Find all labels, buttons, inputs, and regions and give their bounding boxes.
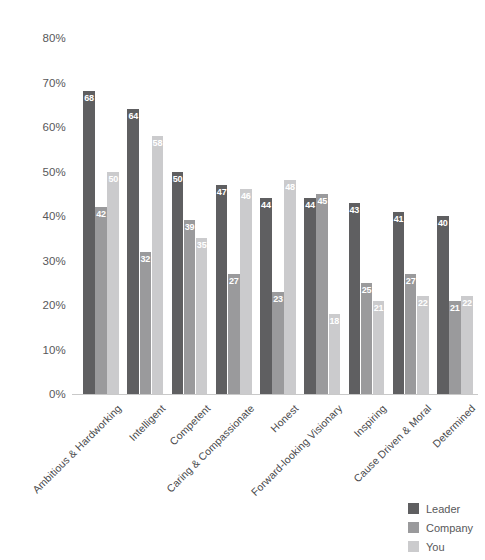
bar-group: 432521 (349, 38, 385, 394)
bar-company[interactable]: 39 (184, 220, 196, 394)
bar-company[interactable]: 42 (95, 207, 107, 394)
bar-value-label: 64 (127, 111, 139, 121)
bar-you[interactable]: 22 (417, 296, 429, 394)
bar-slot: 47 (216, 38, 228, 394)
bar-slot: 21 (449, 38, 461, 394)
bar-group: 503935 (172, 38, 208, 394)
bar-value-label: 27 (405, 276, 417, 286)
y-axis-tick: 80% (42, 32, 66, 44)
bar-value-label: 68 (83, 93, 95, 103)
y-axis-tick: 60% (42, 121, 66, 133)
bar-slot: 21 (373, 38, 385, 394)
bar-value-label: 44 (304, 200, 316, 210)
bar-value-label: 18 (329, 316, 341, 326)
bar-value-label: 35 (196, 240, 208, 250)
bar-leader[interactable]: 68 (83, 91, 95, 394)
bar-group: 402122 (437, 38, 473, 394)
y-axis: 80%70%60%50%40%30%20%10%0% (0, 38, 72, 394)
bar-value-label: 23 (272, 294, 284, 304)
x-axis-labels: Ambitious & HardworkingIntelligentCompet… (78, 396, 476, 496)
bar-group: 444518 (304, 38, 340, 394)
legend-label: Company (426, 522, 473, 534)
legend-item[interactable]: Leader (408, 500, 485, 517)
bar-value-label: 22 (417, 298, 429, 308)
bar-you[interactable]: 21 (373, 301, 385, 394)
bar-slot: 50 (172, 38, 184, 394)
y-axis-tick: 50% (42, 166, 66, 178)
bar-company[interactable]: 23 (272, 292, 284, 394)
bar-value-label: 44 (260, 200, 272, 210)
bar-you[interactable]: 18 (329, 314, 341, 394)
bar-slot: 41 (393, 38, 405, 394)
bar-value-label: 39 (184, 222, 196, 232)
bar-slot: 18 (329, 38, 341, 394)
bar-slot: 48 (284, 38, 296, 394)
bar-you[interactable]: 50 (107, 172, 119, 395)
bar-slot: 27 (228, 38, 240, 394)
bar-value-label: 50 (107, 174, 119, 184)
bar-company[interactable]: 45 (316, 194, 328, 394)
bar-slot: 22 (461, 38, 473, 394)
bar-slot: 58 (152, 38, 164, 394)
bar-leader[interactable]: 44 (304, 198, 316, 394)
y-axis-tick: 10% (42, 344, 66, 356)
bar-slot: 45 (316, 38, 328, 394)
bar-value-label: 32 (140, 254, 152, 264)
bar-company[interactable]: 27 (405, 274, 417, 394)
legend-item[interactable]: You (408, 538, 485, 555)
bar-slot: 46 (240, 38, 252, 394)
legend-swatch (408, 522, 419, 533)
bar-slot: 43 (349, 38, 361, 394)
bar-value-label: 42 (95, 209, 107, 219)
bar-group: 412722 (393, 38, 429, 394)
bar-you[interactable]: 22 (461, 296, 473, 394)
bar-value-label: 40 (437, 218, 449, 228)
bar-company[interactable]: 32 (140, 252, 152, 394)
bar-slot: 25 (361, 38, 373, 394)
bar-group: 472746 (216, 38, 252, 394)
bar-slot: 32 (140, 38, 152, 394)
y-axis-tick: 70% (42, 77, 66, 89)
bar-slot: 23 (272, 38, 284, 394)
legend-swatch (408, 503, 419, 514)
bar-slot: 44 (260, 38, 272, 394)
legend-swatch (408, 541, 419, 552)
bar-slot: 35 (196, 38, 208, 394)
bar-leader[interactable]: 40 (437, 216, 449, 394)
bar-slot: 64 (127, 38, 139, 394)
bar-slot: 68 (83, 38, 95, 394)
bar-slot: 39 (184, 38, 196, 394)
x-axis-baseline (72, 394, 478, 395)
y-axis-tick: 40% (42, 210, 66, 222)
bar-group: 643258 (127, 38, 163, 394)
bar-leader[interactable]: 41 (393, 212, 405, 394)
bar-value-label: 47 (216, 187, 228, 197)
bar-leader[interactable]: 47 (216, 185, 228, 394)
bar-value-label: 41 (393, 214, 405, 224)
bar-leader[interactable]: 44 (260, 198, 272, 394)
bar-group: 442348 (260, 38, 296, 394)
bar-leader[interactable]: 64 (127, 109, 139, 394)
bar-value-label: 48 (284, 182, 296, 192)
bar-value-label: 22 (461, 298, 473, 308)
bar-leader[interactable]: 43 (349, 203, 361, 394)
bar-value-label: 43 (349, 205, 361, 215)
y-axis-tick: 30% (42, 255, 66, 267)
bar-company[interactable]: 27 (228, 274, 240, 394)
bar-group: 684250 (83, 38, 119, 394)
chart-legend: LeaderCompanyYou (408, 500, 485, 557)
bar-value-label: 27 (228, 276, 240, 286)
bar-leader[interactable]: 50 (172, 172, 184, 395)
bar-you[interactable]: 46 (240, 189, 252, 394)
bar-you[interactable]: 58 (152, 136, 164, 394)
bar-company[interactable]: 21 (449, 301, 461, 394)
bar-company[interactable]: 25 (361, 283, 373, 394)
bar-value-label: 58 (152, 138, 164, 148)
bar-you[interactable]: 48 (284, 180, 296, 394)
bar-slot: 22 (417, 38, 429, 394)
legend-item[interactable]: Company (408, 519, 485, 536)
bar-value-label: 45 (316, 196, 328, 206)
bar-slot: 42 (95, 38, 107, 394)
bar-slot: 50 (107, 38, 119, 394)
bar-you[interactable]: 35 (196, 238, 208, 394)
